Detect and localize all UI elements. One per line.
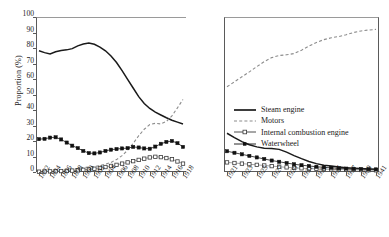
legend-label: Internal combustion engine (261, 127, 349, 138)
series-marker (255, 163, 258, 166)
y-tick-mark (33, 172, 36, 173)
legend-key-icon (233, 116, 257, 126)
series-marker (137, 158, 140, 161)
y-tick-mark (33, 95, 36, 96)
legend-label: Waterwheel (261, 138, 299, 149)
y-tick-mark (33, 17, 36, 18)
y-tick-mark (33, 110, 36, 111)
series-marker (255, 156, 258, 159)
legend-item: Steam engine (233, 104, 349, 115)
series-line-motors (39, 99, 183, 171)
y-tick-mark (33, 79, 36, 80)
series-marker (225, 150, 228, 153)
series-marker (132, 145, 135, 148)
y-tick-mark (33, 157, 36, 158)
series-marker (120, 147, 123, 150)
series-marker (98, 151, 101, 154)
legend-item: Internal combustion engine (233, 127, 349, 138)
series-marker (225, 161, 228, 164)
series-marker (71, 144, 74, 147)
series-marker (93, 152, 96, 155)
series-marker (143, 157, 146, 160)
legend-item: Motors (233, 115, 349, 126)
series-marker (104, 149, 107, 152)
series-marker (165, 156, 168, 159)
series-marker (37, 138, 40, 141)
series-marker (270, 164, 273, 167)
series-marker (148, 156, 151, 159)
y-axis-tick-labels: 0102030405060708090100 (10, 14, 34, 172)
left-panel-x-labels: 1892189418961898190019021904190619081910… (36, 172, 186, 232)
series-marker (159, 155, 162, 158)
series-line-steam-engine (39, 43, 183, 124)
series-marker (143, 147, 146, 150)
series-marker (54, 136, 57, 139)
chart-legend: Steam engineMotorsInternal combustion en… (233, 104, 349, 150)
series-marker (115, 147, 118, 150)
series-marker (159, 142, 162, 145)
series-marker (233, 151, 236, 154)
series-marker (181, 162, 184, 165)
legend-key-icon (233, 139, 257, 149)
series-marker (181, 145, 184, 148)
legend-label: Steam engine (261, 104, 304, 115)
series-marker (176, 142, 179, 145)
series-marker (65, 141, 68, 144)
y-tick-mark (33, 64, 36, 65)
series-marker (109, 148, 112, 151)
legend-key-icon (233, 127, 257, 137)
right-panel-x-labels: 1921192319251927192919311933193519371939… (224, 172, 379, 232)
y-tick-mark (33, 141, 36, 142)
series-marker (300, 164, 303, 167)
series-marker (248, 154, 251, 157)
y-tick-mark (33, 33, 36, 34)
series-marker (82, 149, 85, 152)
series-marker (165, 140, 168, 143)
series-marker (126, 161, 129, 164)
series-marker (270, 159, 273, 162)
series-marker (43, 137, 46, 140)
series-line-motors (227, 29, 376, 86)
series-marker (154, 155, 157, 158)
series-marker (170, 139, 173, 142)
left-panel-plot (36, 17, 186, 172)
series-marker (148, 147, 151, 150)
legend-key-icon (233, 105, 257, 115)
series-marker (240, 153, 243, 156)
series-marker (240, 162, 243, 165)
series-marker (263, 157, 266, 160)
series-marker (87, 151, 90, 154)
y-tick-mark (33, 126, 36, 127)
series-marker (137, 146, 140, 149)
legend-item: Waterwheel (233, 138, 349, 149)
series-marker (170, 158, 173, 161)
legend-label: Motors (261, 115, 284, 126)
series-marker (285, 161, 288, 164)
series-marker (48, 136, 51, 139)
series-marker (60, 138, 63, 141)
series-marker (126, 147, 129, 150)
y-tick-mark (33, 48, 36, 49)
series-marker (76, 147, 79, 150)
series-marker (154, 145, 157, 148)
left-panel: 1892189418961898190019021904190619081910… (36, 17, 186, 172)
